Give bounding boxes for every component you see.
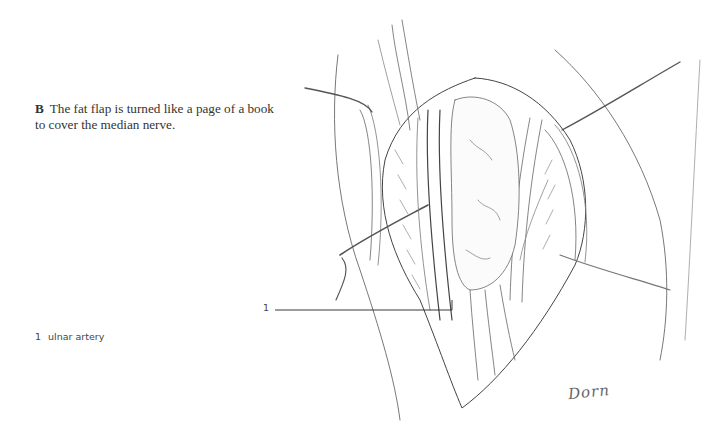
surgical-illustration: [0, 0, 726, 430]
